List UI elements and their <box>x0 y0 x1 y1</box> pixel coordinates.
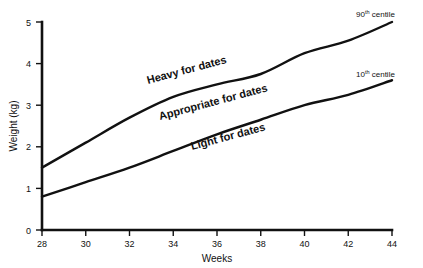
label-10th-centile-text: 10th centile <box>356 69 395 79</box>
y-axis-title: Weight (kg) <box>8 101 19 152</box>
label-90th-centile-word: centile <box>372 10 396 19</box>
x-tick-label-36: 36 <box>212 239 222 249</box>
x-tick-label-44: 44 <box>387 239 397 249</box>
y-tick-label-4: 4 <box>26 59 31 69</box>
y-tick-label-2: 2 <box>26 142 31 152</box>
y-tick-label-1: 1 <box>26 184 31 194</box>
weight-centile-chart: 0 1 2 3 4 5 Weight (kg) 28 30 32 34 <box>0 0 423 268</box>
band-label-light: Light for dates <box>189 121 266 152</box>
label-90th-centile-text: 90th centile <box>356 9 395 19</box>
x-tick-label-28: 28 <box>37 239 47 249</box>
x-tick-label-38: 38 <box>256 239 266 249</box>
band-label-heavy: Heavy for dates <box>145 53 227 86</box>
label-10th-centile-word: centile <box>372 70 396 79</box>
x-tick-label-32: 32 <box>124 239 134 249</box>
x-tick-label-34: 34 <box>168 239 178 249</box>
chart-svg: 0 1 2 3 4 5 Weight (kg) 28 30 32 34 <box>0 0 423 268</box>
x-tick-label-42: 42 <box>343 239 353 249</box>
y-tick-label-3: 3 <box>26 101 31 111</box>
label-90th-centile: 90th centile <box>356 9 395 19</box>
x-axis-title: Weeks <box>202 253 232 264</box>
band-label-appropriate: Appropriate for dates <box>157 81 268 122</box>
x-tick-label-30: 30 <box>81 239 91 249</box>
y-axis-tick-labels: 0 1 2 3 4 5 <box>26 18 31 236</box>
y-tick-label-0: 0 <box>26 226 31 236</box>
y-tick-label-5: 5 <box>26 18 31 28</box>
x-axis-tick-labels: 28 30 32 34 36 38 40 42 44 <box>37 239 397 249</box>
label-10th-centile: 10th centile <box>356 69 395 79</box>
x-tick-label-40: 40 <box>299 239 309 249</box>
